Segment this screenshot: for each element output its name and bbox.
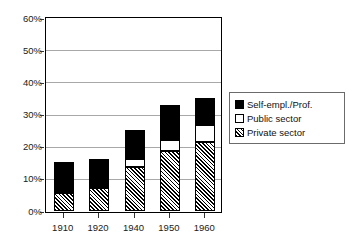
legend-item[interactable]: Self-empl./Prof.: [235, 97, 340, 111]
bar-segment-private-sector[interactable]: [195, 142, 215, 211]
y-axis-tick-mark: [40, 19, 44, 20]
y-axis: 0%10%20%30%40%50%60%: [4, 0, 42, 250]
y-axis-tick-label: 20%: [8, 142, 42, 152]
x-axis-tick-label: 1940: [114, 222, 154, 234]
x-axis-tick-mark: [169, 213, 170, 218]
bar-segment-self-employed[interactable]: [160, 105, 180, 140]
x-axis-tick-label: 1910: [43, 222, 83, 234]
y-axis-tick-label: 50%: [8, 46, 42, 56]
chart-legend: Self-empl./Prof.Public sectorPrivate sec…: [229, 92, 345, 144]
plot-area: [45, 17, 222, 213]
hatched-square-icon: [235, 128, 244, 137]
x-axis-tick-label: 1960: [184, 222, 224, 234]
bar-group[interactable]: [160, 18, 180, 211]
legend-item-label: Private sector: [247, 127, 305, 138]
bar-group[interactable]: [89, 18, 109, 211]
bar-segment-private-sector[interactable]: [125, 167, 145, 211]
bar-segment-public-sector[interactable]: [160, 140, 180, 151]
legend-item[interactable]: Public sector: [235, 111, 340, 125]
x-axis-tick-marks: [45, 213, 222, 219]
x-axis-tick-label: 1950: [149, 222, 189, 234]
x-axis-tick-mark: [134, 213, 135, 218]
filled-black-square-icon: [235, 100, 244, 109]
bar-segment-private-sector[interactable]: [89, 188, 109, 211]
y-axis-tick-mark: [40, 147, 44, 148]
y-axis-tick-mark: [40, 83, 44, 84]
bar-group[interactable]: [54, 18, 74, 211]
y-axis-tick-mark: [40, 179, 44, 180]
bar-segment-self-employed[interactable]: [89, 159, 109, 188]
legend-item[interactable]: Private sector: [235, 125, 340, 139]
bar-segment-private-sector[interactable]: [54, 193, 74, 211]
bar-segment-public-sector[interactable]: [195, 125, 215, 142]
bar-segment-self-employed[interactable]: [195, 98, 215, 125]
y-axis-tick-label: 10%: [8, 174, 42, 184]
x-axis-tick-label: 1920: [78, 222, 118, 234]
bars-layer: [46, 18, 221, 212]
y-axis-tick-mark: [40, 51, 44, 52]
legend-item-label: Public sector: [247, 113, 301, 124]
y-axis-tick-label: 40%: [8, 78, 42, 88]
y-axis-tick-mark: [40, 212, 44, 213]
x-axis-tick-mark: [204, 213, 205, 218]
y-axis-tick-label: 60%: [8, 14, 42, 24]
y-axis-tick-label: 0%: [8, 207, 42, 217]
y-axis-tick-label: 30%: [8, 110, 42, 120]
legend-item-label: Self-empl./Prof.: [247, 99, 312, 110]
x-axis-tick-mark: [63, 213, 64, 218]
x-axis-tick-mark: [98, 213, 99, 218]
empty-white-square-icon: [235, 114, 244, 123]
bar-segment-private-sector[interactable]: [160, 151, 180, 211]
x-axis: 19101920194019501960: [45, 222, 222, 238]
bar-group[interactable]: [195, 18, 215, 211]
bar-segment-self-employed[interactable]: [54, 162, 74, 193]
bar-segment-public-sector[interactable]: [125, 159, 145, 167]
bar-segment-self-employed[interactable]: [125, 130, 145, 159]
bar-group[interactable]: [125, 18, 145, 211]
stacked-bar-chart: 0%10%20%30%40%50%60% 1910192019401950196…: [0, 0, 349, 250]
y-axis-tick-mark: [40, 115, 44, 116]
